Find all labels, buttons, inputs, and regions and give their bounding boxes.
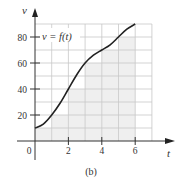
riemann-rectangle <box>102 50 119 141</box>
chart-canvas: v = f(t) v t 204060800246 (b) <box>0 0 180 190</box>
x-axis-arrow-icon <box>165 138 175 144</box>
y-tick-label: 80 <box>18 33 28 43</box>
y-tick-label: 20 <box>18 111 28 121</box>
x-tick-label: 6 <box>133 146 138 156</box>
y-axis-label: v <box>22 4 27 16</box>
y-tick-label: 40 <box>18 85 28 95</box>
figure-caption: (b) <box>85 166 97 178</box>
x-tick-label: 4 <box>99 146 104 156</box>
x-tick-label: 0 <box>27 146 32 156</box>
x-tick-label: 2 <box>66 146 71 156</box>
y-axis-arrow-icon <box>32 8 38 17</box>
y-tick-label: 60 <box>18 59 28 69</box>
riemann-rectangle <box>35 128 52 141</box>
x-axis-label: t <box>167 147 171 159</box>
curve-label: v = f(t) <box>42 31 72 43</box>
